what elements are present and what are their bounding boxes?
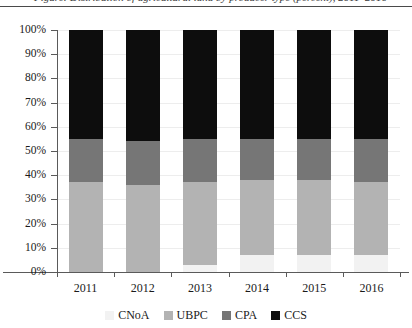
y-axis-line bbox=[57, 30, 58, 273]
bar-segment-cpa bbox=[240, 139, 274, 180]
bar-segment-cnoa bbox=[183, 265, 217, 272]
y-tick-mark bbox=[51, 103, 57, 104]
legend-swatch-icon bbox=[271, 311, 280, 320]
gridline bbox=[57, 103, 400, 104]
y-tick-label: 70% bbox=[0, 97, 46, 109]
gridline bbox=[57, 175, 400, 176]
x-tick-label-2014: 2014 bbox=[227, 282, 287, 294]
y-tick-mark bbox=[51, 30, 57, 31]
bar-2015 bbox=[297, 30, 331, 272]
bar-segment-ccs bbox=[126, 30, 160, 141]
legend-item-cnoa[interactable]: CNoA bbox=[105, 309, 149, 321]
gridline bbox=[57, 151, 400, 152]
legend-swatch-icon bbox=[164, 311, 173, 320]
y-tick-mark bbox=[51, 199, 57, 200]
gridline bbox=[57, 54, 400, 55]
bar-2016 bbox=[354, 30, 388, 272]
bar-segment-ccs bbox=[183, 30, 217, 139]
gridline bbox=[57, 127, 400, 128]
chart-legend: CNoAUBPCCPACCS bbox=[0, 305, 412, 325]
y-tick-mark bbox=[51, 54, 57, 55]
y-tick-label: 40% bbox=[0, 169, 46, 181]
y-tick-label: 50% bbox=[0, 145, 46, 157]
x-tick-mark bbox=[229, 272, 230, 277]
bar-segment-ubpc bbox=[183, 182, 217, 264]
bar-segment-ubpc bbox=[240, 180, 274, 255]
gridline bbox=[57, 30, 400, 31]
bar-segment-ubpc bbox=[354, 182, 388, 255]
x-tick-label-2016: 2016 bbox=[341, 282, 401, 294]
y-tick-mark bbox=[51, 175, 57, 176]
bar-2013 bbox=[183, 30, 217, 272]
x-tick-label-2011: 2011 bbox=[56, 282, 116, 294]
caption-text: Figure: Distribution of agricultural lan… bbox=[34, 0, 387, 3]
bar-segment-cpa bbox=[69, 139, 103, 183]
legend-swatch-icon bbox=[105, 311, 114, 320]
bar-segment-cpa bbox=[183, 139, 217, 183]
x-tick-mark bbox=[400, 272, 401, 277]
y-tick-label: 60% bbox=[0, 121, 46, 133]
legend-label: UBPC bbox=[177, 309, 208, 321]
bar-segment-cnoa bbox=[354, 255, 388, 272]
legend-label: CCS bbox=[284, 309, 307, 321]
y-tick-label: 30% bbox=[0, 193, 46, 205]
bar-2012 bbox=[126, 30, 160, 272]
bar-segment-ubpc bbox=[126, 185, 160, 272]
bar-2011 bbox=[69, 30, 103, 272]
y-tick-label: 100% bbox=[0, 24, 46, 36]
bar-segment-cpa bbox=[354, 139, 388, 183]
x-tick-mark bbox=[114, 272, 115, 277]
gridline bbox=[57, 248, 400, 249]
bar-segment-ccs bbox=[354, 30, 388, 139]
bar-segment-cpa bbox=[297, 139, 331, 180]
y-tick-label: 20% bbox=[0, 218, 46, 230]
x-tick-label-2012: 2012 bbox=[113, 282, 173, 294]
x-tick-mark bbox=[171, 272, 172, 277]
x-tick-mark bbox=[57, 272, 58, 277]
y-tick-mark bbox=[51, 224, 57, 225]
bar-2014 bbox=[240, 30, 274, 272]
y-tick-mark bbox=[51, 78, 57, 79]
y-tick-label: 0% bbox=[0, 266, 46, 278]
bar-segment-ccs bbox=[240, 30, 274, 139]
plot-area bbox=[57, 30, 400, 272]
y-tick-mark bbox=[51, 248, 57, 249]
bar-segment-ubpc bbox=[69, 182, 103, 272]
y-tick-mark bbox=[51, 151, 57, 152]
legend-swatch-icon bbox=[222, 311, 231, 320]
legend-label: CPA bbox=[235, 309, 257, 321]
y-tick-label: 10% bbox=[0, 242, 46, 254]
legend-item-ubpc[interactable]: UBPC bbox=[164, 309, 208, 321]
x-tick-mark bbox=[343, 272, 344, 277]
x-tick-mark bbox=[286, 272, 287, 277]
bar-segment-ccs bbox=[69, 30, 103, 139]
legend-item-cpa[interactable]: CPA bbox=[222, 309, 257, 321]
bar-segment-cpa bbox=[126, 141, 160, 185]
y-tick-label: 90% bbox=[0, 48, 46, 60]
bar-segment-ccs bbox=[297, 30, 331, 139]
y-tick-mark bbox=[51, 127, 57, 128]
bar-segment-ubpc bbox=[297, 180, 331, 255]
stacked-bar-chart: 0%10%20%30%40%50%60%70%80%90%100% 201120… bbox=[0, 7, 412, 328]
gridline bbox=[57, 199, 400, 200]
x-tick-label-2015: 2015 bbox=[284, 282, 344, 294]
bar-segment-cnoa bbox=[240, 255, 274, 272]
x-tick-label-2013: 2013 bbox=[170, 282, 230, 294]
gridline bbox=[57, 224, 400, 225]
gridline bbox=[57, 78, 400, 79]
legend-item-ccs[interactable]: CCS bbox=[271, 309, 307, 321]
bar-segment-cnoa bbox=[297, 255, 331, 272]
legend-label: CNoA bbox=[118, 309, 149, 321]
y-tick-label: 80% bbox=[0, 72, 46, 84]
x-axis-line bbox=[3, 272, 409, 273]
